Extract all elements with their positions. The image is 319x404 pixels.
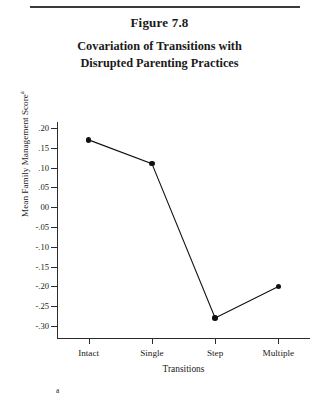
- x-axis-tick-label: Step: [207, 348, 223, 358]
- data-point: [86, 137, 92, 143]
- y-axis-tick-label: -.25: [35, 301, 49, 311]
- y-axis-footnote-superscript: a: [18, 91, 25, 94]
- x-axis-title: Transitions: [57, 364, 310, 374]
- y-axis-tick-label: -.20: [35, 281, 49, 291]
- x-axis-tick: [278, 338, 279, 344]
- header-rule: [30, 6, 300, 8]
- y-axis-tick-label: .10: [38, 163, 49, 173]
- x-axis-tick-label: Multiple: [263, 348, 295, 358]
- figure-number: Figure 7.8: [0, 15, 319, 31]
- figure-container: Figure 7.8 Covariation of Transitions wi…: [0, 0, 319, 404]
- y-axis-title-text: Mean Family Management Score: [20, 94, 30, 217]
- y-axis-tick-label: -.15: [35, 262, 49, 272]
- y-axis-tick-label: -.30: [35, 321, 49, 331]
- y-axis-tick-label: .05: [38, 182, 49, 192]
- x-axis-tick: [215, 338, 216, 344]
- y-axis-tick-label: -.10: [35, 242, 49, 252]
- y-axis-tick-label: 00: [40, 202, 49, 212]
- data-point: [149, 161, 155, 167]
- y-axis-tick-label: .15: [38, 143, 49, 153]
- y-axis-tick-label: -.05: [35, 222, 49, 232]
- y-axis-title: Mean Family Management Scorea: [18, 74, 30, 234]
- data-point: [212, 315, 218, 321]
- figure-title: Covariation of Transitions with Disrupte…: [30, 38, 289, 72]
- line-series-path: [57, 128, 310, 338]
- x-axis-tick: [152, 338, 153, 344]
- plot-area: .20.15.10.0500-.05-.10-.15-.20-.25-.30 I…: [57, 128, 310, 326]
- x-axis-tick-label: Single: [140, 348, 163, 358]
- x-axis-tick: [89, 338, 90, 344]
- y-axis-tick-label: .20: [38, 123, 49, 133]
- x-axis-line: [57, 338, 310, 339]
- figure-title-line-2: Disrupted Parenting Practices: [30, 55, 289, 72]
- data-layer: [57, 128, 310, 338]
- x-axis-tick-label: Intact: [78, 348, 99, 358]
- footnote-marker: a: [56, 386, 59, 395]
- figure-title-line-1: Covariation of Transitions with: [30, 38, 289, 55]
